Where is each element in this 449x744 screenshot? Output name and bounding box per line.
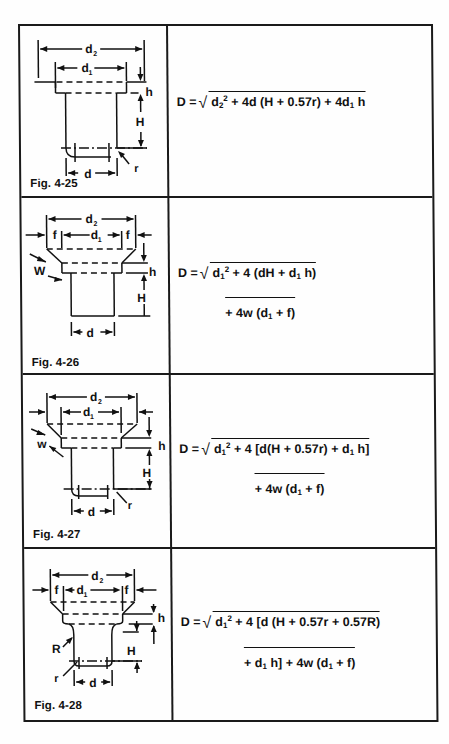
formula-radicand: d12 + 4 (dH + d1 h) xyxy=(209,262,316,281)
figure-caption: Fig. 4-28 xyxy=(34,699,82,711)
svg-text:2: 2 xyxy=(99,577,103,584)
svg-text:1: 1 xyxy=(83,591,87,598)
svg-text:d: d xyxy=(84,167,91,181)
svg-text:d: d xyxy=(85,212,92,226)
svg-text:f: f xyxy=(53,228,58,242)
formula-table: d 2 d1 h H d r Fig. 4-25 D =√d22 + 4d (H… xyxy=(18,24,438,722)
table-row: d2 d1 ff W h H d Fig. 4-26 D =√d12 + 4 (… xyxy=(21,198,433,375)
svg-text:w: w xyxy=(36,437,47,451)
formula-radicand: d12 + 4 [d (H + 0.57r + 0.57R) xyxy=(212,611,380,630)
shell-diagram-fig-4-26: d2 d1 ff W h H d xyxy=(21,198,168,373)
svg-text:r: r xyxy=(128,499,133,511)
svg-text:d: d xyxy=(91,569,98,583)
svg-text:H: H xyxy=(127,644,136,658)
figure-cell: d2 d1 w h H d r Fig. 4-27 xyxy=(23,375,172,547)
svg-text:1: 1 xyxy=(98,236,102,243)
svg-text:2: 2 xyxy=(98,398,102,405)
svg-text:r: r xyxy=(54,672,59,684)
svg-text:d: d xyxy=(86,326,93,340)
svg-text:1: 1 xyxy=(88,69,92,76)
shell-diagram-fig-4-28: d2 d1 ff R r h H d xyxy=(24,549,171,721)
figure-caption: Fig. 4-27 xyxy=(33,528,81,540)
formula-line-1: D =√d12 + 4 [d(H + 0.57r) + d1 h] xyxy=(179,438,369,459)
shell-diagram-fig-4-27: d2 d1 w h H d r xyxy=(23,375,170,547)
formula-cell: D =√d12 + 4 (dH + d1 h) + 4w (d1 + f) xyxy=(169,198,433,373)
formula-cell: D =√d12 + 4 [d(H + 0.57r) + d1 h] + 4w (… xyxy=(171,375,435,547)
svg-text:h: h xyxy=(145,85,152,99)
svg-text:2: 2 xyxy=(93,50,97,57)
svg-text:f: f xyxy=(54,583,59,597)
formula-cell: D =√d22 + 4d (H + 0.57r) + 4d1 h xyxy=(168,26,432,196)
formula-line-2: + d1 h] + 4w (d1 + f) xyxy=(244,647,356,671)
shell-diagram-fig-4-25: d 2 d1 h H d r xyxy=(20,26,167,196)
svg-text:d: d xyxy=(89,676,96,690)
formula-line-2: + 4w (d1 + f) xyxy=(255,473,325,497)
figure-caption: Fig. 4-26 xyxy=(32,356,80,368)
svg-text:1: 1 xyxy=(90,413,94,420)
sqrt-symbol: √ xyxy=(198,94,207,112)
svg-text:f: f xyxy=(124,583,129,597)
svg-text:R: R xyxy=(52,642,61,656)
formula-cell: D =√d12 + 4 [d (H + 0.57r + 0.57R) + d1 … xyxy=(172,549,436,722)
formula-radicand: d22 + 4d (H + 0.57r) + 4d1 h xyxy=(208,91,365,110)
table-row: d2 d1 ff R r h H d Fig. 4-28 D =√d12 + 4… xyxy=(24,549,436,722)
figure-cell: d2 d1 ff R r h H d Fig. 4-28 xyxy=(24,549,173,722)
svg-text:d: d xyxy=(90,390,97,404)
table-row: d 2 d1 h H d r Fig. 4-25 D =√d22 + 4d (H… xyxy=(20,26,432,198)
svg-text:h: h xyxy=(158,611,165,625)
svg-text:f: f xyxy=(126,228,131,242)
sqrt-symbol: √ xyxy=(202,614,211,632)
svg-text:h: h xyxy=(158,439,165,453)
svg-text:h: h xyxy=(149,265,156,279)
sqrt-symbol: √ xyxy=(201,441,210,459)
svg-text:H: H xyxy=(136,115,145,129)
svg-text:H: H xyxy=(142,466,151,480)
svg-text:d: d xyxy=(85,42,92,56)
formula: D =√d22 + 4d (H + 0.57r) + 4d1 h xyxy=(177,91,366,112)
svg-text:d: d xyxy=(88,505,95,519)
formula-radicand: d12 + 4 [d(H + 0.57r) + d1 h] xyxy=(211,438,370,457)
svg-text:H: H xyxy=(137,291,146,305)
svg-text:W: W xyxy=(34,264,46,278)
svg-text:r: r xyxy=(134,162,139,174)
formula-line-1: D =√d12 + 4 (dH + d1 h) xyxy=(178,262,316,283)
figure-cell: d2 d1 ff W h H d Fig. 4-26 xyxy=(21,198,170,373)
svg-text:2: 2 xyxy=(94,220,98,227)
formula-line-1: D =√d12 + 4 [d (H + 0.57r + 0.57R) xyxy=(181,611,381,632)
figure-cell: d 2 d1 h H d r Fig. 4-25 xyxy=(20,26,169,196)
figure-caption: Fig. 4-25 xyxy=(30,177,78,189)
sqrt-symbol: √ xyxy=(200,265,209,283)
formula-line-2: + 4w (d1 + f) xyxy=(225,297,295,321)
table-row: d2 d1 w h H d r Fig. 4-27 D =√d12 + 4 [d… xyxy=(23,375,435,549)
